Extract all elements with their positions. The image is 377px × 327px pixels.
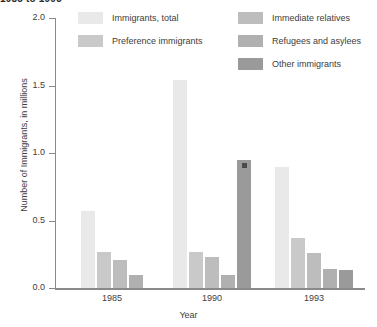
legend-item: Immediate relatives [238,12,361,24]
bar [339,270,353,288]
legend-swatch-immigrants-total [78,12,103,24]
legend-label: Immediate relatives [272,14,350,23]
bar [323,269,337,288]
x-tick-label: 1990 [192,293,232,303]
legend-label: Other immigrants [272,60,341,69]
legend-item: Preference immigrants [78,35,203,47]
y-axis-line [55,18,56,288]
y-tick [49,288,55,289]
x-tick-label: 1985 [92,293,132,303]
bar [129,275,143,289]
legend-column-right: Immediate relatives Refugees and asylees… [238,12,361,81]
legend-label: Refugees and asylees [272,37,361,46]
bar [97,252,111,288]
bar [307,253,321,288]
legend-swatch-other-immigrants [238,58,263,70]
x-axis-line [55,288,365,290]
legend-column-left: Immigrants, total Preference immigrants [78,12,203,58]
legend-item: Other immigrants [238,58,361,70]
legend-swatch-immediate-relatives [238,12,263,24]
x-tick-label: 1993 [294,293,334,303]
y-tick [49,18,55,19]
bar [205,257,219,288]
bar [275,167,289,289]
legend-item: Refugees and asylees [238,35,361,47]
legend-swatch-preference-immigrants [78,35,103,47]
legend-label: Preference immigrants [112,37,203,46]
bar [291,238,305,288]
legend-swatch-refugees-and-asylees [238,35,263,47]
chart-title: 1985 to 1993 [0,0,62,4]
y-tick [49,153,55,154]
bar [81,211,95,288]
y-axis-label: Number of Immigrants, in millions [19,65,29,225]
bar [173,80,187,288]
y-tick [49,221,55,222]
x-axis-label: Year [0,310,377,320]
bar-marker-icon [242,163,247,168]
legend-label: Immigrants, total [112,14,179,23]
bar [221,275,235,289]
y-tick-label: 2.0 [15,12,45,22]
bar [237,160,251,288]
y-tick-label: 0.0 [15,282,45,292]
bar [189,252,203,288]
legend-item: Immigrants, total [78,12,203,24]
chart-legend: Immigrants, total Preference immigrants … [78,12,377,74]
bar [113,260,127,288]
y-tick [49,86,55,87]
bar-chart: 1985 to 1993 Immigrants, total Preferenc… [0,0,377,327]
